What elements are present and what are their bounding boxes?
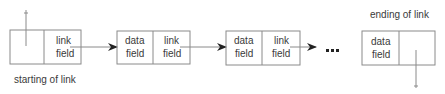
data-field-label: field bbox=[126, 48, 144, 59]
data-field-label: data bbox=[234, 35, 254, 46]
data-field-label: field bbox=[235, 48, 253, 59]
linked-list-diagram: link field data field link field data fi… bbox=[0, 0, 445, 94]
data-field-label: data bbox=[371, 36, 391, 47]
node-2: data field link field bbox=[226, 31, 300, 65]
link-field-label: link bbox=[164, 35, 180, 46]
link-field-label: link bbox=[56, 35, 72, 46]
link-field-label: link bbox=[274, 35, 290, 46]
ellipsis bbox=[326, 49, 339, 52]
data-field-label: data bbox=[125, 35, 145, 46]
data-field-label: field bbox=[372, 49, 390, 60]
end-label: ending of link bbox=[370, 9, 430, 20]
tail-node: ending of link data field bbox=[362, 9, 435, 88]
link-field-label: field bbox=[272, 48, 290, 59]
link-field-label: field bbox=[163, 48, 181, 59]
head-node: link field bbox=[10, 10, 81, 64]
link-field-label: field bbox=[56, 48, 74, 59]
node-1: data field link field bbox=[117, 31, 190, 64]
start-label: starting of link bbox=[14, 74, 77, 85]
